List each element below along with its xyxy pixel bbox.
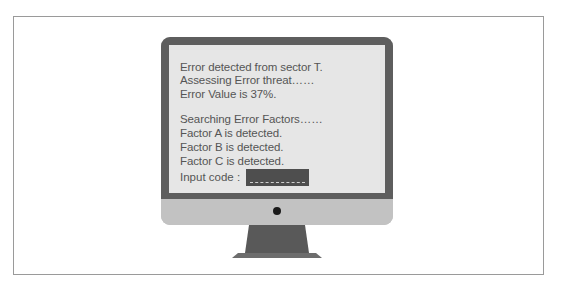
code-input-row: Input code : bbox=[180, 168, 309, 186]
monitor-stand-base bbox=[232, 253, 322, 258]
code-input-field[interactable] bbox=[246, 169, 309, 186]
camera-icon bbox=[273, 207, 281, 215]
terminal-line-factor-a: Factor A is detected. bbox=[180, 127, 282, 140]
terminal-line-searching: Searching Error Factors…… bbox=[180, 113, 323, 126]
terminal-line-factor-c: Factor C is detected. bbox=[180, 155, 284, 168]
monitor-stand-neck bbox=[245, 225, 309, 253]
monitor-screen: Error detected from sector T. Assessing … bbox=[169, 45, 385, 193]
terminal-line-factor-b: Factor B is detected. bbox=[180, 141, 283, 154]
monitor-bezel: Error detected from sector T. Assessing … bbox=[161, 37, 393, 199]
monitor: Error detected from sector T. Assessing … bbox=[161, 37, 393, 225]
monitor-chin bbox=[161, 199, 393, 225]
terminal-line-assessing: Assessing Error threat…… bbox=[180, 74, 314, 87]
terminal-line-error-value: Error Value is 37%. bbox=[180, 88, 276, 101]
terminal-line-error-detected: Error detected from sector T. bbox=[180, 61, 323, 74]
code-input-label: Input code : bbox=[180, 171, 240, 183]
